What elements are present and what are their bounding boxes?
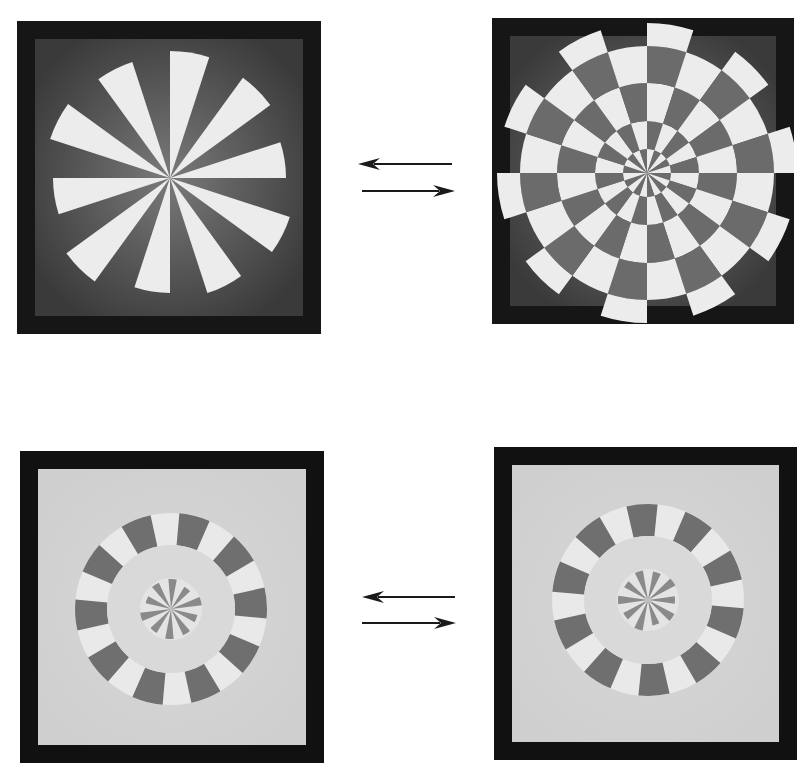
stimulus-panel-top-left: Radial fan (10 light sectors on dark fie… — [17, 21, 321, 334]
tabbed-ring-pattern-rotated — [494, 447, 797, 760]
radial-fan-pattern — [17, 21, 321, 334]
checkerboard-dartboard-pattern — [492, 18, 794, 324]
stimulus-panel-bottom-left: Light field with tabbed ring and inner s… — [20, 451, 324, 763]
arrow-right-icon — [360, 615, 458, 631]
stimulus-panel-top-right: Checkerboard dartboard on dark field — [492, 18, 794, 324]
stimulus-panel-bottom-right: Light field with tabbed ring and inner s… — [494, 447, 797, 760]
figure-description: Paired rotating sector stimuli with reve… — [0, 0, 1, 1]
arrow-left-icon — [356, 156, 454, 172]
arrow-right-icon — [360, 183, 457, 199]
tabbed-ring-pattern — [20, 451, 324, 763]
arrow-left-icon — [360, 589, 457, 605]
